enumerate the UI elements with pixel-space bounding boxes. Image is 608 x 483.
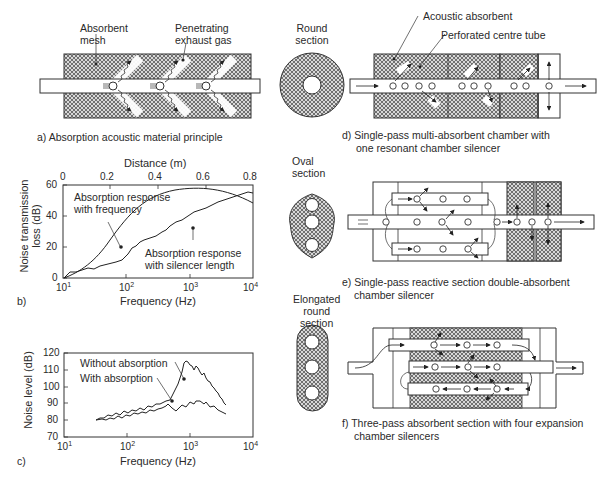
penetrating-gas-label: Penetratingexhaust gas	[175, 22, 232, 46]
label-line: exhaust gas	[175, 34, 232, 46]
tick-exp: 2	[130, 281, 134, 288]
label-line: Elongated	[293, 293, 340, 305]
tick-exp: 4	[254, 281, 258, 288]
annotation-length: Absorption responsewith silencer length	[145, 247, 241, 271]
y-tick: 40	[46, 210, 57, 221]
y-tick: 120	[43, 347, 60, 358]
x-tick: 102	[120, 440, 135, 452]
annotation-frequency: Absorption responsewith frequency	[74, 191, 170, 215]
caption-line: chamber silencers	[342, 430, 439, 442]
tick-base: 10	[57, 441, 68, 452]
chart-b-panel-label: b)	[17, 295, 26, 308]
top-tick: 0.6	[196, 171, 210, 182]
tick-base: 10	[120, 441, 131, 452]
caption-line: d) Single-pass multi-absorbent chamber w…	[342, 129, 550, 141]
tick-exp: 3	[194, 440, 198, 447]
oval-section-label: Ovalsection	[292, 155, 325, 179]
top-tick: 0	[60, 171, 66, 182]
panel-e-caption: e) Single-pass reactive section double-a…	[342, 276, 570, 302]
label-line: round	[303, 305, 330, 317]
y-tick: 110	[43, 364, 59, 375]
label-line: Penetrating	[175, 22, 229, 34]
caption-line: e) Single-pass reactive section double-a…	[342, 276, 570, 288]
caption-line: one resonant chamber silencer	[342, 142, 500, 154]
panel-e-diagram	[348, 182, 594, 261]
tick-exp: 1	[67, 281, 71, 288]
figure-canvas	[0, 0, 608, 483]
x-tick: 104	[243, 281, 258, 293]
x-tick: 101	[56, 281, 71, 293]
chart-c-xlabel: Frequency (Hz)	[120, 455, 196, 468]
chart-c-ylabel: Noise level (dB)	[22, 340, 34, 440]
chart-b-xlabel: Frequency (Hz)	[120, 295, 196, 308]
x-tick: 103	[183, 281, 198, 293]
label-line: Absorbent	[80, 22, 128, 34]
tick-base: 10	[183, 441, 194, 452]
x-tick: 104	[243, 440, 258, 452]
round-section-label: Roundsection	[294, 22, 330, 46]
label-line: section	[292, 167, 325, 179]
tick-exp: 3	[194, 281, 198, 288]
y-tick: 60	[46, 179, 57, 190]
top-tick: 0.4	[148, 171, 162, 182]
elongated-section-label: Elongatedroundsection	[293, 293, 340, 329]
chart-b-ylabel: Noise transmissionloss (dB)	[18, 176, 42, 276]
top-tick: 0.8	[243, 171, 257, 182]
annotation-line: Absorption response	[145, 247, 241, 259]
caption-line: chamber silencer	[342, 289, 434, 301]
tick-exp: 2	[131, 440, 135, 447]
x-tick: 101	[57, 440, 72, 452]
annotation-without-absorption: Without absorption	[80, 357, 168, 369]
absorbent-mesh-label: Absorbentmesh	[80, 22, 128, 46]
y-tick: 100	[43, 381, 60, 392]
chart-b-top-axis-title: Distance (m)	[124, 157, 186, 170]
ylabel-line: loss (dB)	[30, 204, 42, 247]
label-line: section	[300, 317, 333, 329]
y-tick: 20	[46, 241, 57, 252]
panel-d-caption: d) Single-pass multi-absorbent chamber w…	[342, 129, 550, 155]
annotation-with-absorption: With absorption	[80, 372, 153, 384]
tick-base: 10	[243, 441, 254, 452]
chart-c-panel-label: c)	[17, 455, 26, 468]
round-section-icon	[280, 53, 344, 117]
tick-base: 10	[243, 282, 254, 293]
y-tick: 80	[47, 414, 58, 425]
perforated-tube-label: Perforated centre tube	[441, 29, 545, 41]
tick-exp: 4	[254, 440, 258, 447]
panel-a-diagram	[40, 34, 260, 118]
tick-base: 10	[119, 282, 130, 293]
panel-f-diagram	[348, 328, 583, 408]
x-tick: 103	[183, 440, 198, 452]
tick-base: 10	[183, 282, 194, 293]
oval-section-icon	[290, 194, 335, 258]
panel-a-caption: a) Absorption acoustic material principl…	[37, 131, 223, 144]
annotation-line: with silencer length	[145, 259, 234, 271]
annotation-line: Absorption response	[74, 191, 170, 203]
annotation-line: with frequency	[74, 203, 142, 215]
label-line: mesh	[80, 34, 106, 46]
ylabel-line: Noise transmission	[18, 180, 30, 273]
caption-line: f) Three-pass absorbent section with fou…	[342, 417, 583, 429]
tick-exp: 1	[68, 440, 72, 447]
label-line: section	[295, 34, 328, 46]
top-tick: 0.2	[100, 171, 114, 182]
panel-f-caption: f) Three-pass absorbent section with fou…	[342, 417, 583, 443]
y-tick: 90	[47, 397, 58, 408]
label-line: Oval	[292, 155, 314, 167]
elongated-section-icon	[297, 325, 328, 411]
label-line: Round	[297, 22, 328, 34]
acoustic-absorbent-label: Acoustic absorbent	[423, 10, 512, 22]
tick-base: 10	[56, 282, 67, 293]
x-tick: 102	[119, 281, 134, 293]
